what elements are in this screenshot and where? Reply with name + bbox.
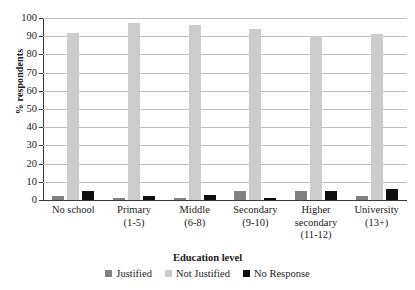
legend-entry: No Response: [243, 268, 310, 279]
x-category-label-line: University: [335, 204, 415, 217]
y-tick-label: 70: [5, 67, 37, 78]
gridline: [43, 145, 407, 146]
y-tick-mark: [39, 182, 43, 183]
x-category-label: University(13+): [335, 204, 415, 229]
y-tick-mark: [39, 109, 43, 110]
gridline: [43, 109, 407, 110]
x-category-label-line: (11-12): [274, 229, 358, 242]
plot-area: [43, 18, 407, 200]
y-tick-mark: [39, 73, 43, 74]
y-tick-label: 30: [5, 139, 37, 150]
x-axis-title: Education level: [0, 252, 415, 263]
y-tick-mark: [39, 200, 43, 201]
gridline: [43, 91, 407, 92]
bar-no-response: [264, 198, 276, 200]
bar-not-justified: [371, 34, 383, 200]
y-tick-mark: [39, 36, 43, 37]
x-category-label-line: (13+): [335, 217, 415, 230]
y-tick-label: 40: [5, 121, 37, 132]
gridline: [43, 36, 407, 37]
bar-group: [295, 18, 337, 200]
gridline: [43, 127, 407, 128]
gridline: [43, 54, 407, 55]
bar-group: [356, 18, 398, 200]
legend-swatch-icon: [165, 270, 172, 277]
bar-no-response: [143, 196, 155, 200]
bar-not-justified: [310, 36, 322, 200]
legend-label: No Response: [254, 268, 310, 279]
bar-not-justified: [67, 33, 79, 200]
y-tick-label: 60: [5, 85, 37, 96]
bar-chart: % respondents 1009080706050403020100 No …: [0, 0, 415, 290]
bar-justified: [295, 191, 307, 200]
legend-entry: Not Justified: [165, 268, 230, 279]
y-tick-mark: [39, 145, 43, 146]
gridline: [43, 73, 407, 74]
legend-label: Not Justified: [176, 268, 230, 279]
bar-justified: [356, 196, 368, 200]
y-tick-label: 10: [5, 176, 37, 187]
bar-not-justified: [189, 25, 201, 200]
y-tick-label: 50: [5, 103, 37, 114]
legend-swatch-icon: [105, 270, 112, 277]
x-axis-line: [43, 200, 407, 201]
gridline: [43, 18, 407, 19]
y-tick-mark: [39, 164, 43, 165]
y-tick-mark: [39, 91, 43, 92]
legend-entry: Justified: [105, 268, 152, 279]
y-tick-mark: [39, 54, 43, 55]
y-tick-label: 100: [5, 12, 37, 23]
bar-not-justified: [128, 23, 140, 200]
bar-justified: [113, 198, 125, 200]
bar-group: [52, 18, 94, 200]
bar-no-response: [204, 195, 216, 200]
bar-no-response: [386, 189, 398, 200]
bar-no-response: [325, 191, 337, 200]
bar-group: [113, 18, 155, 200]
bar-group: [174, 18, 216, 200]
gridline: [43, 164, 407, 165]
y-tick-mark: [39, 127, 43, 128]
bar-justified: [52, 196, 64, 200]
bar-group: [234, 18, 276, 200]
legend-swatch-icon: [243, 270, 250, 277]
y-tick-label: 20: [5, 158, 37, 169]
y-tick-label: 90: [5, 30, 37, 41]
bar-not-justified: [249, 29, 261, 200]
bar-justified: [234, 191, 246, 200]
bar-justified: [174, 198, 186, 200]
gridline: [43, 182, 407, 183]
y-tick-mark: [39, 18, 43, 19]
y-tick-label: 80: [5, 48, 37, 59]
legend-label: Justified: [116, 268, 152, 279]
bar-no-response: [82, 191, 94, 200]
chart-legend: JustifiedNot JustifiedNo Response: [0, 268, 415, 279]
